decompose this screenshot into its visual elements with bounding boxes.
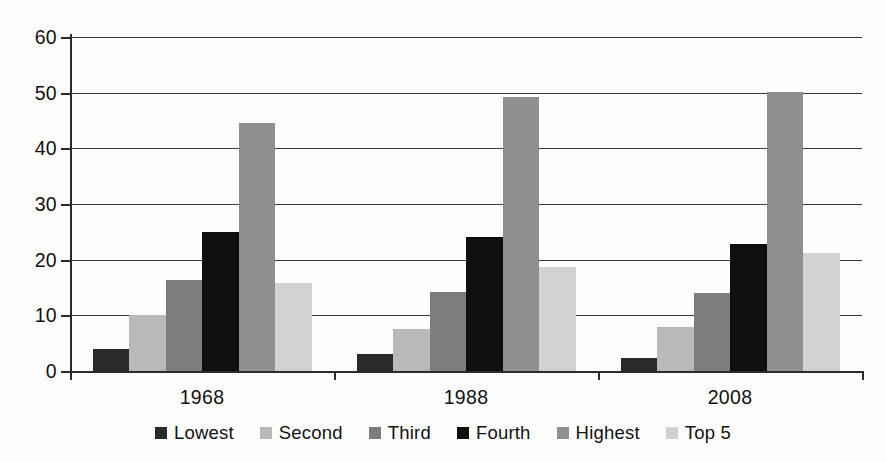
gridline-50 [70, 93, 862, 94]
legend-item-fourth[interactable]: Fourth [457, 422, 531, 444]
x-tick-mark [334, 371, 336, 380]
legend-swatch-top-5 [666, 427, 678, 439]
x-axis [68, 371, 862, 373]
legend-swatch-fourth [457, 427, 469, 439]
bar-chart: 0102030405060 196819882008 LowestSecondT… [0, 0, 886, 462]
legend-swatch-second [260, 427, 272, 439]
bar-1968-third [166, 280, 203, 371]
y-axis-tick-label: 40 [35, 137, 57, 160]
bar-1988-lowest [357, 354, 394, 371]
y-tick-mark-40 [61, 148, 70, 150]
gridline-60 [70, 37, 862, 38]
legend-swatch-lowest [155, 427, 167, 439]
bar-1968-highest [239, 123, 276, 371]
legend-label-third: Third [388, 422, 431, 444]
bar-1968-top-5 [275, 283, 312, 371]
y-tick-mark-50 [61, 93, 70, 95]
x-tick-mark [862, 371, 864, 380]
legend-swatch-highest [557, 427, 569, 439]
legend-item-top-5[interactable]: Top 5 [666, 422, 731, 444]
y-axis-tick-label: 50 [35, 81, 57, 104]
bar-2008-second [657, 327, 694, 371]
bar-1988-fourth [466, 237, 503, 371]
bar-1988-top-5 [539, 267, 576, 371]
x-tick-mark [598, 371, 600, 380]
y-tick-mark-10 [61, 315, 70, 317]
bar-2008-highest [767, 92, 804, 371]
bar-1988-highest [503, 97, 540, 371]
bar-1988-second [393, 329, 430, 371]
legend-item-second[interactable]: Second [260, 422, 343, 444]
y-axis-tick-label: 0 [46, 360, 57, 383]
legend-item-lowest[interactable]: Lowest [155, 422, 234, 444]
legend-label-lowest: Lowest [174, 422, 234, 444]
y-axis-tick-label: 30 [35, 193, 57, 216]
x-axis-group-label-1968: 1968 [180, 386, 225, 409]
legend-label-fourth: Fourth [476, 422, 531, 444]
legend-label-highest: Highest [576, 422, 640, 444]
legend-item-highest[interactable]: Highest [557, 422, 640, 444]
x-axis-group-label-2008: 2008 [708, 386, 753, 409]
plot-area: 0102030405060 [70, 37, 862, 371]
bar-2008-lowest [621, 358, 658, 371]
bar-1968-lowest [93, 349, 130, 371]
y-tick-mark-60 [61, 37, 70, 39]
legend-swatch-third [369, 427, 381, 439]
y-axis-tick-label: 10 [35, 304, 57, 327]
bar-2008-top-5 [803, 253, 840, 371]
legend-item-third[interactable]: Third [369, 422, 431, 444]
bar-2008-third [694, 293, 731, 371]
bar-1988-third [430, 292, 467, 371]
y-axis [70, 34, 72, 374]
legend-label-second: Second [279, 422, 343, 444]
bar-2008-fourth [730, 244, 767, 371]
y-axis-tick-label: 60 [35, 26, 57, 49]
legend: LowestSecondThirdFourthHighestTop 5 [0, 422, 886, 444]
y-tick-mark-20 [61, 260, 70, 262]
bar-1968-second [129, 315, 166, 371]
x-tick-mark [70, 371, 72, 380]
legend-label-top-5: Top 5 [685, 422, 731, 444]
y-axis-tick-label: 20 [35, 248, 57, 271]
y-tick-mark-30 [61, 204, 70, 206]
gridline-40 [70, 148, 862, 149]
gridline-30 [70, 204, 862, 205]
x-axis-group-label-1988: 1988 [444, 386, 489, 409]
bar-1968-fourth [202, 232, 239, 371]
